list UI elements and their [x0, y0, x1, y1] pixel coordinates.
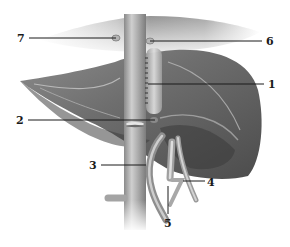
label-4: 4	[207, 177, 215, 188]
label-6: 6	[266, 36, 274, 47]
liver-anatomy-illustration	[0, 0, 290, 247]
inferior-vena-cava	[124, 14, 146, 232]
label-3: 3	[89, 160, 97, 171]
label-2: 2	[16, 115, 24, 126]
label-1: 1	[268, 79, 276, 90]
label-5: 5	[164, 218, 172, 229]
label-7: 7	[17, 33, 25, 44]
